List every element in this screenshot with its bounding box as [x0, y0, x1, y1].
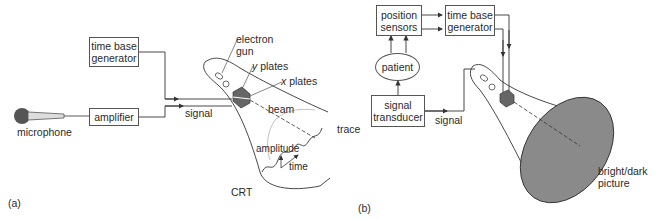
x-plates-text: plates — [286, 75, 317, 87]
x-plates-label: x plates — [281, 75, 317, 87]
y-plates-text: plates — [257, 60, 288, 72]
microphone-icon — [14, 108, 64, 124]
trace-label: trace — [337, 123, 360, 135]
patient-node: patient — [375, 53, 420, 81]
generator-label-b: generator — [447, 21, 493, 33]
amplifier-label: amplifier — [94, 111, 134, 123]
panel-b-label: (b) — [358, 202, 371, 214]
panel-a-label: (a) — [8, 197, 21, 209]
picture-line: picture — [598, 177, 648, 189]
sensors-label: sensors — [381, 21, 418, 33]
position-label: position — [381, 9, 418, 21]
bright-dark-picture-label: bright/darkpicture — [598, 165, 648, 189]
time-base-generator-box-b: time basegenerator — [445, 5, 495, 36]
signal-label-b: signal — [435, 114, 462, 126]
signal-transducer-box: signaltransducer — [371, 95, 425, 127]
deflection-plates-b — [500, 90, 514, 107]
transducer-line: transducer — [373, 111, 423, 123]
amplifier-box: amplifier — [89, 108, 139, 126]
patient-label: patient — [382, 61, 414, 73]
time-base-generator-box-a: time basegenerator — [89, 37, 139, 67]
time-label: time — [289, 161, 308, 173]
beam-label: beam — [268, 103, 294, 115]
bright-dark-line: bright/dark — [598, 165, 648, 177]
position-sensors-box: positionsensors — [376, 5, 422, 36]
crt-label: CRT — [231, 186, 252, 198]
time-base-label: time base — [91, 40, 137, 52]
signal-line: signal — [373, 99, 423, 111]
gun-label: gun — [236, 45, 273, 57]
electron-gun-label: electrongun — [236, 33, 273, 57]
amplitude-label: amplitude — [256, 143, 299, 155]
signal-label-a: signal — [185, 107, 212, 119]
microphone-label: microphone — [17, 126, 72, 138]
crt-screen — [501, 80, 633, 219]
deflection-plates-a — [233, 87, 250, 108]
electron-label: electron — [236, 33, 273, 45]
time-base-label-b: time base — [447, 9, 493, 21]
generator-label: generator — [91, 52, 137, 64]
y-plates-label: y plates — [252, 60, 288, 72]
